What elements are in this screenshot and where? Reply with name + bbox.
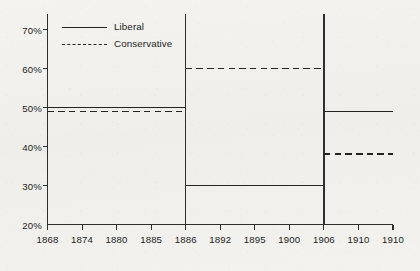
x-tick-label-7: 1900	[278, 234, 300, 245]
y-tick-label-40: 40%	[8, 141, 42, 152]
y-tick-label-20: 20%	[8, 219, 42, 230]
x-tick-label-1: 1874	[71, 234, 93, 245]
legend-swatch-liberal	[62, 22, 107, 31]
legend-swatch-conservative	[62, 39, 107, 48]
y-tick-label-50: 50%	[8, 102, 42, 113]
chart-legend: LiberalConservative	[62, 18, 172, 52]
x-tick-label-9: 1910	[347, 234, 369, 245]
x-tick-label-3: 1885	[140, 234, 162, 245]
x-tick-label-0: 1868	[37, 234, 59, 245]
y-tick-label-70: 70%	[8, 24, 42, 35]
legend-item-liberal: Liberal	[62, 18, 172, 35]
legend-label-liberal: Liberal	[114, 21, 144, 32]
x-tick-label-10: 1910	[382, 234, 404, 245]
x-tick-label-6: 1895	[244, 234, 266, 245]
legend-label-conservative: Conservative	[114, 38, 172, 49]
chart-figure: 20%30%40%50%60%70% 186818741880188518861…	[0, 0, 420, 271]
x-tick-label-5: 1892	[209, 234, 231, 245]
x-tick-label-2: 1880	[106, 234, 128, 245]
legend-item-conservative: Conservative	[62, 35, 172, 52]
x-tick-label-8: 1906	[313, 234, 335, 245]
y-tick-label-30: 30%	[8, 180, 42, 191]
y-tick-label-60: 60%	[8, 63, 42, 74]
x-tick-label-4: 1886	[175, 234, 197, 245]
